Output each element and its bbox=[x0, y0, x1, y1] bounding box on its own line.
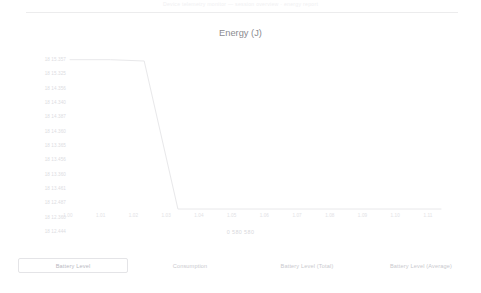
x-axis-tick: 1.04 bbox=[186, 212, 212, 219]
x-axis-tick: 1.00 bbox=[55, 212, 81, 219]
x-axis-tick: 1.06 bbox=[251, 212, 277, 219]
legend-item-battery-level-total[interactable]: Battery Level (Total) bbox=[252, 258, 362, 273]
x-axis-tick: 1.08 bbox=[317, 212, 343, 219]
x-axis-tick: 1.09 bbox=[350, 212, 376, 219]
top-header-bar: Device telemetry monitor — session overv… bbox=[0, 0, 481, 14]
legend-item-battery-level[interactable]: Battery Level bbox=[18, 258, 128, 273]
x-axis-tick: 1.05 bbox=[219, 212, 245, 219]
legend-item-battery-level-average[interactable]: Battery Level (Average) bbox=[366, 258, 476, 273]
x-axis-tick: 1.01 bbox=[88, 212, 114, 219]
header-caption: Device telemetry monitor — session overv… bbox=[0, 0, 481, 8]
x-axis-tick-labels: 1.001.011.021.031.041.051.061.071.081.09… bbox=[60, 212, 448, 222]
legend-item-consumption[interactable]: Consumption bbox=[140, 258, 240, 273]
energy-chart-panel: Energy (J) 18 15.35718 15.32518 14.35618… bbox=[0, 14, 481, 246]
x-axis-tick: 1.07 bbox=[284, 212, 310, 219]
x-axis-tick: 1.02 bbox=[120, 212, 146, 219]
chart-legend: Battery LevelConsumptionBattery Level (T… bbox=[0, 252, 481, 284]
x-axis-tick: 1.11 bbox=[415, 212, 441, 219]
legend-item-label: Battery Level (Total) bbox=[281, 263, 334, 269]
x-axis-tick: 1.03 bbox=[153, 212, 179, 219]
header-divider bbox=[26, 12, 458, 13]
x-axis-tick: 1.10 bbox=[382, 212, 408, 219]
series-line-battery-level bbox=[70, 60, 441, 209]
legend-item-label: Battery Level (Average) bbox=[390, 263, 452, 269]
legend-item-label: Consumption bbox=[173, 263, 208, 269]
legend-item-label: Battery Level bbox=[56, 263, 91, 269]
x-axis-label: 0 580 580 bbox=[0, 228, 481, 236]
